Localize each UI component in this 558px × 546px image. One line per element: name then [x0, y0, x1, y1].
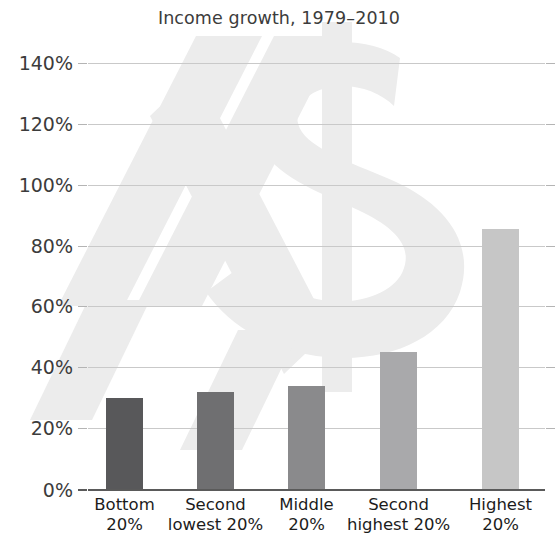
- gridline-60: [88, 306, 545, 307]
- ytick-mark-20-right: [546, 428, 555, 429]
- xtick-label-second-lowest-20: Second lowest 20%: [168, 495, 263, 535]
- xtick-label-middle-20: Middle 20%: [279, 495, 334, 535]
- ytick-label-120: 120%: [19, 113, 73, 135]
- xtick-label-middle-20-line1: Middle: [279, 495, 334, 515]
- xtick-label-second-highest-20-line1: Second: [347, 495, 450, 515]
- chart-figure: Income growth, 1979–2010 140% 120% 100% …: [0, 0, 558, 546]
- ytick-mark-120-right: [546, 124, 555, 125]
- gridline-80: [88, 246, 545, 247]
- plot-area: 140% 120% 100% 80% 60% 40% 20%: [88, 63, 545, 489]
- gridline-120: [88, 124, 545, 125]
- ytick-label-20: 20%: [31, 417, 73, 439]
- bar-second-lowest-20: [197, 392, 234, 489]
- ytick-mark-40-right: [546, 367, 555, 368]
- ytick-label-140: 140%: [19, 52, 73, 74]
- xtick-label-middle-20-line2: 20%: [279, 515, 334, 535]
- xtick-label-highest-20-line2: 20%: [469, 515, 532, 535]
- ytick-label-80: 80%: [31, 235, 73, 257]
- ytick-mark-100-right: [546, 185, 555, 186]
- ytick-mark-140-left: [78, 63, 87, 64]
- xtick-label-highest-20-line1: Highest: [469, 495, 532, 515]
- xtick-label-second-lowest-20-line1: Second: [168, 495, 263, 515]
- xtick-label-second-highest-20: Second highest 20%: [347, 495, 450, 535]
- chart-title: Income growth, 1979–2010: [0, 8, 558, 28]
- gridline-40: [88, 367, 545, 368]
- ytick-mark-60-left: [78, 306, 87, 307]
- xtick-label-highest-20: Highest 20%: [469, 495, 532, 535]
- ytick-mark-120-left: [78, 124, 87, 125]
- xtick-label-bottom-20-line1: Bottom: [94, 495, 155, 515]
- ytick-label-60: 60%: [31, 295, 73, 317]
- gridline-100: [88, 185, 545, 186]
- ytick-mark-80-right: [546, 246, 555, 247]
- axis-baseline: [88, 489, 545, 491]
- gridline-140: [88, 63, 545, 64]
- xtick-label-second-highest-20-line2: highest 20%: [347, 515, 450, 535]
- bar-highest-20: [482, 229, 519, 489]
- ytick-mark-140-right: [546, 63, 555, 64]
- ytick-mark-100-left: [78, 185, 87, 186]
- ytick-mark-80-left: [78, 246, 87, 247]
- xtick-label-bottom-20: Bottom 20%: [94, 495, 155, 535]
- bar-middle-20: [288, 386, 325, 489]
- ytick-mark-0-left: [78, 489, 87, 491]
- xtick-label-second-lowest-20-line2: lowest 20%: [168, 515, 263, 535]
- ytick-label-40: 40%: [31, 356, 73, 378]
- ytick-label-0: 0%: [43, 479, 73, 501]
- ytick-mark-60-right: [546, 306, 555, 307]
- ytick-mark-40-left: [78, 367, 87, 368]
- bar-second-highest-20: [380, 352, 417, 489]
- bar-bottom-20: [106, 398, 143, 489]
- ytick-label-100: 100%: [19, 174, 73, 196]
- xtick-label-bottom-20-line2: 20%: [94, 515, 155, 535]
- ytick-mark-20-left: [78, 428, 87, 429]
